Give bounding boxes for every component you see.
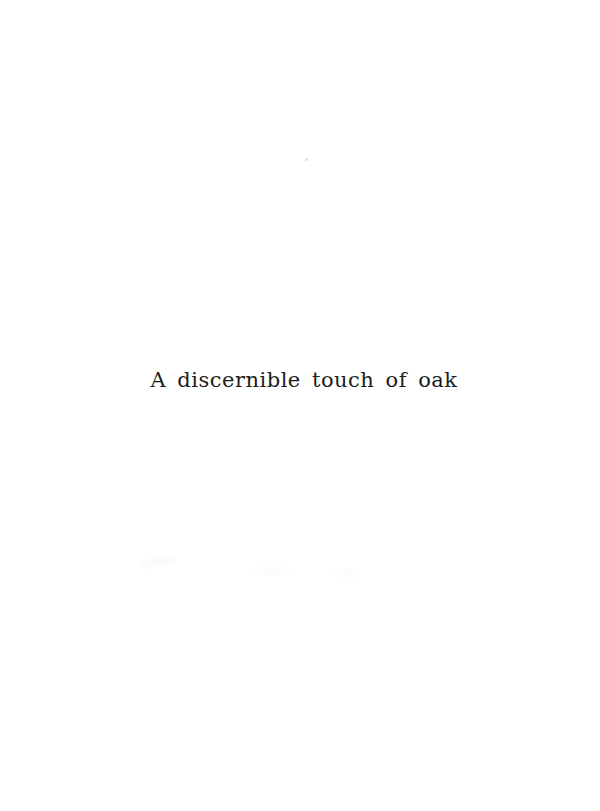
scan-smudge xyxy=(330,570,360,576)
half-title-text: A discernible touch of oak xyxy=(0,368,600,393)
scan-smudge xyxy=(250,568,290,574)
scan-smudge xyxy=(140,556,175,569)
paper-speck xyxy=(305,158,308,161)
book-page: A discernible touch of oak xyxy=(0,0,600,811)
